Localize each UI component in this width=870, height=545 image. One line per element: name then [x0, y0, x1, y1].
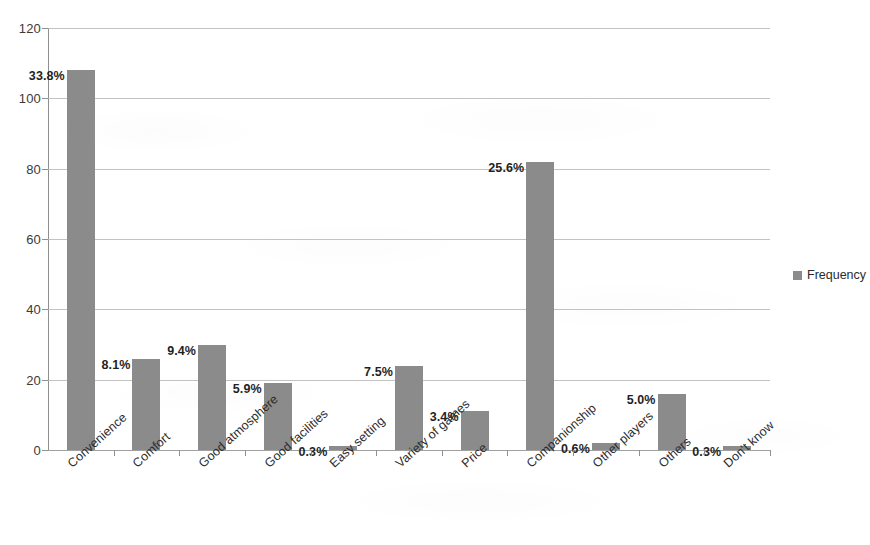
y-axis-tick-label: 0: [34, 443, 41, 458]
bar-value-label: 7.5%: [364, 365, 393, 379]
y-axis-tick-label: 120: [19, 21, 41, 36]
x-axis-tick: [376, 450, 377, 456]
y-axis-tick-label: 60: [26, 232, 41, 247]
x-axis-tick: [573, 450, 574, 456]
bar-value-label: 0.6%: [561, 442, 590, 456]
bar-value-label: 5.9%: [233, 382, 262, 396]
plot-area: 33.8%8.1%9.4%5.9%0.3%7.5%3.4%25.6%0.6%5.…: [48, 28, 770, 450]
x-axis-tick: [507, 450, 508, 456]
x-axis-tick: [311, 450, 312, 456]
legend-swatch-frequency-icon: [793, 271, 802, 280]
x-axis-tick: [245, 450, 246, 456]
bar-value-label: 5.0%: [627, 393, 656, 407]
y-axis-tick-label: 40: [26, 302, 41, 317]
bar-value-label: 25.6%: [488, 161, 524, 175]
bar-chart-figure: 020406080100120 33.8%8.1%9.4%5.9%0.3%7.5…: [0, 0, 870, 545]
y-axis-tick-label: 80: [26, 161, 41, 176]
legend-label-frequency: Frequency: [807, 268, 866, 282]
bar-value-label: 9.4%: [167, 344, 196, 358]
y-axis-tick-label: 100: [19, 91, 41, 106]
bar-value-label: 8.1%: [102, 358, 131, 372]
x-axis-tick: [770, 450, 771, 456]
x-axis-tick: [704, 450, 705, 456]
x-axis-tick: [442, 450, 443, 456]
bar-value-label: 0.3%: [692, 445, 721, 459]
y-axis-tick-label: 20: [26, 372, 41, 387]
chart-legend: Frequency: [793, 268, 866, 282]
bar: [526, 162, 554, 450]
x-axis-tick: [114, 450, 115, 456]
bar-value-label: 0.3%: [298, 445, 327, 459]
bar-value-label: 33.8%: [29, 69, 65, 83]
bar: [67, 70, 95, 450]
y-axis-tick: [42, 450, 48, 451]
x-axis-tick: [639, 450, 640, 456]
x-axis-tick: [179, 450, 180, 456]
bar: [198, 345, 226, 451]
